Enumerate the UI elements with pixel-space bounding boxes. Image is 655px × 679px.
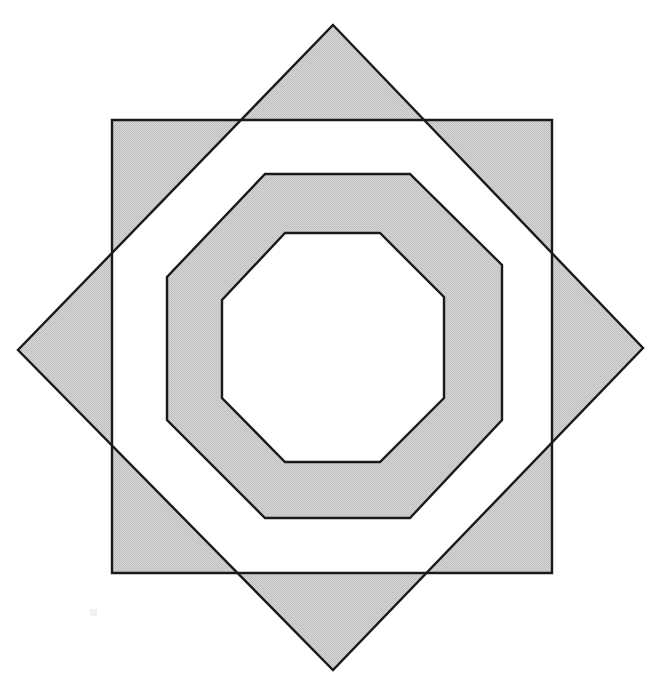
geometric-figure-svg: Overlapping square, rotated square and t… <box>0 0 655 679</box>
figure-canvas: Overlapping square, rotated square and t… <box>0 0 655 679</box>
